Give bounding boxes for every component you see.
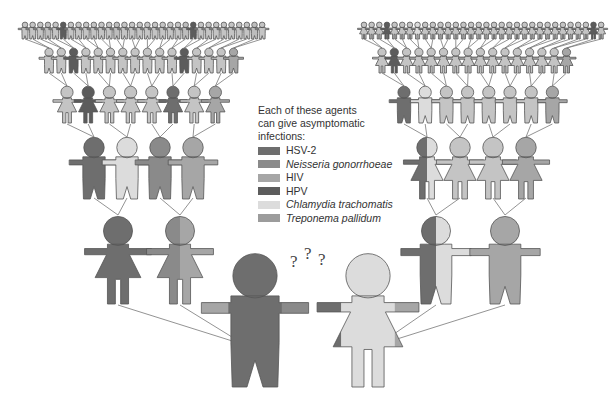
connection-line — [460, 124, 468, 137]
connection-line — [173, 73, 184, 86]
legend-label: HIV — [286, 171, 304, 184]
connection-line — [71, 39, 86, 48]
legend-item-neisseria: Neisseria gonorrhoeae — [258, 158, 418, 172]
connection-line — [505, 73, 510, 86]
connection-line — [109, 73, 110, 86]
legend-item-hsv2: HSV-2 — [258, 144, 418, 158]
female-figure — [434, 48, 454, 74]
legend-title: Each of these agents can give asymptomat… — [258, 104, 418, 143]
legend-item-treponema: Treponema pallidum — [258, 212, 418, 226]
connection-line — [33, 39, 49, 48]
swatch-hpv — [258, 187, 280, 195]
female-figure — [458, 48, 478, 74]
connection-line — [209, 39, 224, 48]
male-figure — [187, 48, 207, 74]
connection-line — [117, 39, 123, 48]
connection-line — [552, 73, 566, 86]
female-figure — [137, 86, 167, 124]
connection-line — [382, 73, 404, 86]
female-figure — [470, 48, 490, 74]
female-figure — [483, 48, 503, 74]
legend-title-line: can give asymptomatic — [258, 117, 418, 130]
connection-line — [489, 73, 493, 86]
connection-line — [480, 39, 494, 48]
female-figure — [435, 137, 485, 200]
legend-item-hiv: HIV — [258, 171, 418, 185]
connection-line — [517, 39, 532, 48]
connection-line — [456, 73, 468, 86]
male-figure — [102, 137, 152, 200]
connection-line — [493, 198, 505, 215]
connection-line — [394, 73, 404, 86]
female-figure — [384, 48, 404, 74]
swatch-chlamydia — [258, 201, 280, 209]
legend-item-hpv: HPV — [258, 185, 418, 199]
connection-line — [118, 198, 127, 215]
connection-line — [379, 39, 394, 48]
connection-line — [160, 198, 180, 215]
connection-line — [480, 39, 486, 48]
connection-line — [123, 73, 131, 86]
male-figure — [174, 48, 194, 74]
male-figure — [64, 48, 84, 74]
male-figure — [162, 48, 182, 74]
legend-label: Chlamydia trachomatis — [286, 198, 393, 211]
male-figure — [495, 86, 525, 124]
male-figure — [538, 86, 568, 124]
male-figure — [101, 48, 121, 74]
male-figure — [211, 48, 231, 74]
legend-label: HSV-2 — [286, 144, 316, 157]
male-figure — [516, 86, 546, 124]
connection-line — [172, 73, 173, 86]
question-mark-icon: ? — [318, 250, 326, 270]
connection-line — [456, 39, 464, 48]
male-figure — [113, 48, 133, 74]
connection-line — [127, 124, 131, 137]
connection-line — [431, 39, 433, 48]
connection-line — [152, 124, 160, 137]
connection-line — [526, 124, 552, 137]
legend-label: Treponema pallidum — [286, 212, 381, 225]
female-figure — [179, 86, 209, 124]
female-figure — [95, 86, 125, 124]
male-figure — [137, 48, 157, 74]
connection-line — [567, 39, 602, 48]
connection-line — [180, 198, 193, 215]
female-figure — [52, 86, 82, 124]
connection-line — [209, 39, 232, 48]
male-figure — [224, 48, 244, 74]
female-figure — [446, 48, 466, 74]
female-figure — [507, 48, 527, 74]
male-figure — [88, 48, 108, 74]
female-figure — [145, 216, 216, 305]
male-figure — [125, 48, 145, 74]
infection-legend: Each of these agents can give asymptomat… — [258, 104, 418, 225]
connection-line — [193, 124, 194, 137]
connection-line — [193, 124, 215, 137]
female-figure — [397, 48, 417, 74]
connection-line — [79, 39, 86, 48]
connection-line — [234, 39, 263, 48]
connection-line — [436, 198, 460, 215]
connection-line — [147, 39, 155, 48]
male-figure — [168, 137, 218, 200]
connection-line — [425, 39, 431, 48]
connection-line — [489, 124, 493, 137]
connection-line — [425, 124, 427, 137]
connection-line — [123, 39, 125, 48]
male-figure — [69, 137, 119, 200]
legend-label: HPV — [286, 185, 308, 198]
female-figure — [532, 48, 552, 74]
female-figure — [520, 48, 540, 74]
female-figure — [495, 48, 515, 74]
connection-line — [98, 73, 109, 86]
connection-line — [131, 73, 136, 86]
male-figure — [401, 216, 472, 305]
swatch-hiv — [258, 174, 280, 182]
connection-line — [147, 73, 151, 86]
connection-line — [517, 39, 540, 48]
connection-line — [135, 39, 140, 48]
female-figure — [158, 86, 188, 124]
connection-line — [480, 73, 488, 86]
female-figure — [557, 48, 577, 74]
